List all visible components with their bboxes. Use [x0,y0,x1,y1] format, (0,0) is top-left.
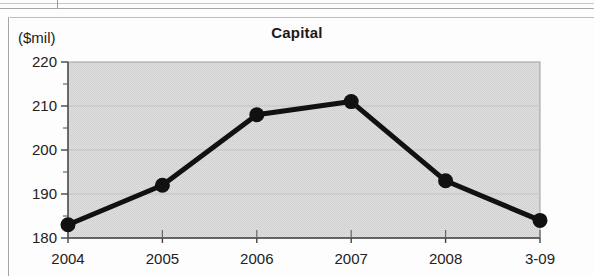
line-chart-svg: 180190200210220 200420052006200720083-09 [0,0,594,276]
svg-text:2006: 2006 [240,250,273,267]
svg-text:2005: 2005 [146,250,179,267]
y-axis-tick-labels: 180190200210220 [32,53,57,246]
chart-plot-area: 180190200210220 200420052006200720083-09 [0,0,594,276]
svg-text:210: 210 [32,97,57,114]
svg-text:220: 220 [32,53,57,70]
x-axis-tick-labels: 200420052006200720083-09 [51,250,555,267]
svg-text:2004: 2004 [51,250,84,267]
svg-text:200: 200 [32,141,57,158]
svg-text:180: 180 [32,229,57,246]
svg-text:3-09: 3-09 [525,250,555,267]
svg-text:190: 190 [32,185,57,202]
chart-page: ($mil) Capital 180190200210220 200420052… [0,0,594,276]
svg-text:2007: 2007 [335,250,368,267]
svg-text:2008: 2008 [429,250,462,267]
